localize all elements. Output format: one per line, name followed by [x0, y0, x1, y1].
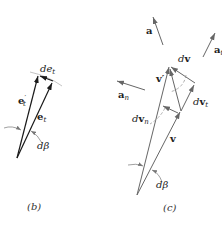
- label-e-t-prime: e′t: [18, 94, 26, 108]
- figure-c: a at an dv v′ dvt dvn v dβ (c): [117, 17, 222, 213]
- label-dbeta-c: dβ: [156, 179, 168, 190]
- label-a-n: an: [118, 89, 129, 102]
- vector-v-prime: [137, 67, 169, 195]
- caption-c: (c): [163, 202, 177, 213]
- label-v: v: [169, 133, 177, 144]
- vector-dv-n-top: [171, 67, 195, 83]
- dashed-arc-lower: [150, 108, 165, 124]
- vector-a: [153, 17, 163, 45]
- label-dbeta-b: dβ: [37, 140, 49, 151]
- label-a: a: [146, 25, 153, 36]
- label-e-t: et: [37, 111, 46, 124]
- vector-de-t: [40, 76, 53, 81]
- angle-arc-left: [4, 127, 21, 130]
- label-dv-n: dvn: [132, 113, 149, 126]
- angle-arc-left-c: [128, 164, 143, 166]
- caption-b: (b): [27, 201, 41, 212]
- vector-e-t-prime: [17, 76, 38, 158]
- label-a-t: at: [214, 44, 222, 57]
- label-v-prime: v′: [155, 73, 165, 84]
- label-dv-t: dvt: [193, 96, 208, 109]
- vector-dv: [170, 69, 181, 111]
- vector-dv-n: [163, 106, 178, 113]
- kinematics-diagram: det e′t et dβ (b) a at an dv v′: [0, 0, 222, 226]
- figure-b: det e′t et dβ (b): [4, 63, 62, 212]
- label-de-t: det: [40, 63, 55, 76]
- arc-guide: [30, 72, 62, 86]
- label-dv: dv: [178, 53, 191, 64]
